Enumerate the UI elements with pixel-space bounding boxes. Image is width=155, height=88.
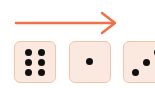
die-six: [14, 41, 56, 83]
pip: [143, 59, 150, 66]
die-three: [123, 41, 155, 83]
pip: [154, 49, 155, 56]
pip: [25, 69, 32, 76]
arrow-right-icon: [14, 11, 120, 35]
die-one: [69, 41, 111, 83]
pip: [38, 49, 45, 56]
pip: [38, 69, 45, 76]
pip: [25, 49, 32, 56]
pip: [86, 58, 93, 65]
pip: [38, 59, 45, 66]
pip: [132, 69, 139, 76]
pip: [25, 59, 32, 66]
